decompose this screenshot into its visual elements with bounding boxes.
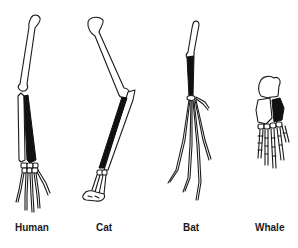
whale-humerus	[259, 76, 280, 98]
whale-ulna	[256, 98, 272, 124]
bat-label: Bat	[183, 222, 199, 233]
bat-fingers	[168, 97, 211, 200]
human-humerus	[18, 15, 40, 91]
bat-radius	[187, 56, 194, 97]
cat-label: Cat	[96, 222, 112, 233]
human-forelimb	[16, 15, 50, 212]
whale-forelimb	[256, 76, 289, 168]
cat-humerus	[88, 17, 130, 98]
human-label: Human	[15, 222, 49, 233]
whale-digits	[258, 126, 289, 168]
forelimb-diagram	[0, 0, 298, 248]
human-radius	[24, 95, 36, 163]
cat-forelimb	[83, 17, 135, 201]
human-carpals	[21, 163, 38, 173]
whale-radius	[272, 98, 284, 122]
bat-wrist	[187, 96, 195, 101]
bat-forelimb	[168, 21, 211, 200]
cat-paw	[83, 170, 107, 201]
whale-label: Whale	[255, 222, 284, 233]
human-fingers	[16, 170, 50, 212]
bat-humerus	[186, 21, 199, 59]
cat-ulna	[104, 90, 135, 170]
